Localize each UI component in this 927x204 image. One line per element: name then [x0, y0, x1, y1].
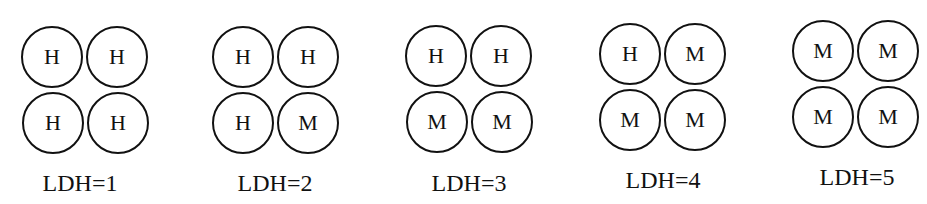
isozyme-label: LDH=2 [200, 170, 350, 197]
subunit-circle: M [664, 23, 726, 85]
subunit-circle: M [664, 89, 726, 151]
subunit-circle: H [22, 92, 84, 154]
subunit-circle: H [470, 25, 532, 87]
isozyme-label: LDH=3 [394, 170, 544, 197]
subunit-circle: M [471, 91, 533, 153]
isozyme-ldh1: H H H H LDH=1 [10, 0, 160, 204]
subunit-circle: M [599, 89, 661, 151]
subunit-circle: H [212, 92, 274, 154]
isozyme-ldh3: H H M M LDH=3 [394, 0, 544, 204]
subunit-circle: H [21, 26, 83, 88]
subunit-circle: H [599, 23, 661, 85]
isozyme-label: LDH=4 [588, 167, 738, 194]
subunit-circle: M [277, 92, 339, 154]
subunit-circle: M [792, 20, 854, 82]
subunit-circle: M [792, 86, 854, 148]
subunit-circle: M [857, 86, 919, 148]
subunit-circle: M [857, 20, 919, 82]
subunit-circle: H [87, 92, 149, 154]
isozyme-label: LDH=1 [5, 170, 155, 197]
isozyme-label: LDH=5 [782, 164, 927, 191]
isozyme-ldh5: M M M M LDH=5 [782, 0, 927, 204]
subunit-circle: H [277, 26, 339, 88]
subunit-circle: H [405, 25, 467, 87]
isozyme-ldh2: H H H M LDH=2 [200, 0, 350, 204]
subunit-circle: M [406, 91, 468, 153]
subunit-circle: H [212, 26, 274, 88]
subunit-circle: H [86, 26, 148, 88]
isozyme-ldh4: H M M M LDH=4 [588, 0, 738, 204]
